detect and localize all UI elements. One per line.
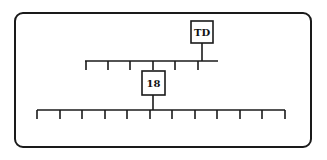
node-td-label: TD <box>194 27 210 38</box>
node-18-label: 18 <box>147 78 161 89</box>
tree-diagram: TD 18 <box>0 0 327 160</box>
